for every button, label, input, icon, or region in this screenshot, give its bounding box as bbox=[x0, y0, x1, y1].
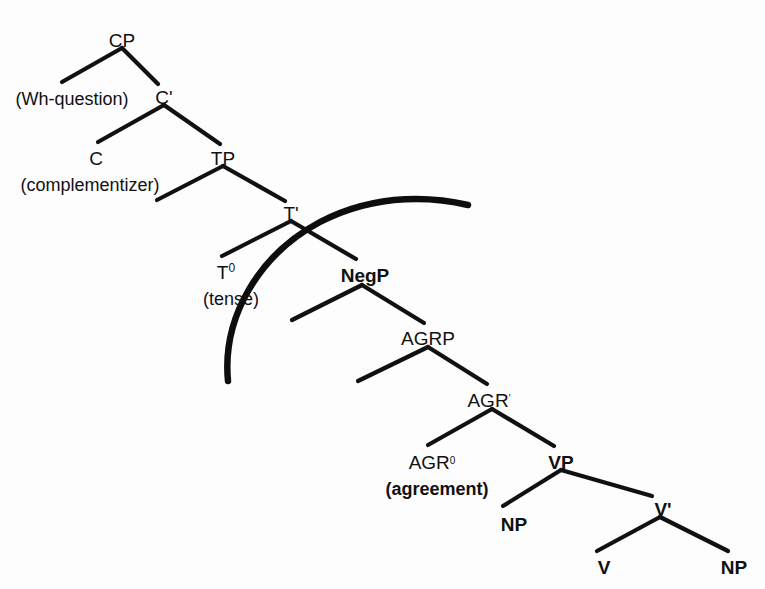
node-label-vbar: V' bbox=[654, 499, 671, 520]
node-label-t0: T0 bbox=[217, 261, 236, 283]
branch-agrbar-right bbox=[492, 409, 554, 446]
branch-negp-right bbox=[362, 285, 424, 323]
node-label-agrbar-prime: ' bbox=[509, 393, 511, 404]
tree-canvas: CP C' C TP T' T0 NegP AGRP AGR' AGR0 VP … bbox=[0, 0, 765, 589]
branch-tp-right bbox=[223, 166, 285, 201]
branch-agrp-right bbox=[428, 347, 487, 384]
node-label-v: V bbox=[598, 557, 611, 578]
node-label-tbar: T' bbox=[283, 203, 298, 224]
node-label-t0-superscript: 0 bbox=[228, 261, 235, 275]
branch-vp-left bbox=[503, 470, 561, 506]
node-label-vp: VP bbox=[548, 452, 574, 473]
branch-lines-group bbox=[62, 48, 728, 551]
branch-vp-right bbox=[561, 470, 652, 496]
node-label-agr0-superscript: 0 bbox=[450, 455, 456, 466]
branch-cp-left bbox=[62, 48, 122, 82]
gloss-agreement: (agreement) bbox=[385, 479, 488, 499]
node-label-negp: NegP bbox=[341, 265, 390, 286]
branch-cbar-right bbox=[164, 105, 220, 144]
branch-agrbar-left bbox=[428, 409, 492, 445]
branch-negp-left bbox=[292, 285, 362, 320]
node-label-np-object: NP bbox=[721, 557, 748, 578]
gloss-wh-question: (Wh-question) bbox=[15, 89, 128, 109]
node-label-t0-base: T bbox=[217, 262, 229, 283]
node-label-agrbar-base: AGR bbox=[467, 390, 508, 411]
gloss-tense: (tense) bbox=[203, 289, 259, 309]
branch-agrp-left bbox=[358, 347, 428, 381]
branch-cp-right bbox=[122, 48, 158, 84]
branch-vbar-right bbox=[660, 517, 728, 551]
gloss-labels-group: (Wh-question) (complementizer) (tense) (… bbox=[15, 89, 488, 499]
node-label-cbar: C' bbox=[155, 87, 172, 108]
node-label-np-subject: NP bbox=[501, 514, 528, 535]
syntax-tree-diagram: CP C' C TP T' T0 NegP AGRP AGR' AGR0 VP … bbox=[0, 0, 765, 589]
branch-tbar-right bbox=[291, 221, 356, 259]
node-label-agr0: AGR0 bbox=[409, 452, 456, 473]
node-label-c: C bbox=[89, 148, 103, 169]
branch-vbar-left bbox=[597, 517, 660, 551]
gloss-complementizer: (complementizer) bbox=[20, 175, 159, 195]
node-label-cp: CP bbox=[109, 30, 135, 51]
node-label-agrbar: AGR' bbox=[467, 390, 510, 411]
branch-cbar-left bbox=[98, 105, 164, 142]
node-label-agrp: AGRP bbox=[401, 328, 455, 349]
node-label-tp: TP bbox=[211, 148, 235, 169]
branch-tp-left bbox=[157, 166, 223, 200]
node-label-agr0-base: AGR bbox=[409, 452, 450, 473]
